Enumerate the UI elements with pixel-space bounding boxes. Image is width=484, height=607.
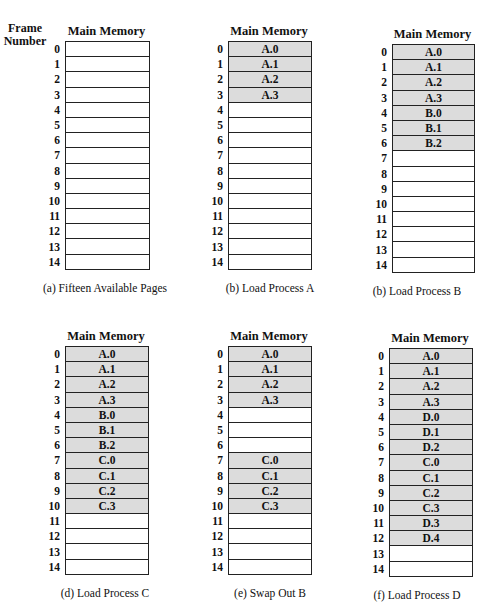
frame-empty [66,57,149,72]
frame-empty [229,164,311,179]
frame-page-d-1: D.1 [390,425,472,440]
frame-empty [66,42,149,57]
frame-number: 8 [365,167,387,181]
frame-page-c-1: C.1 [66,469,148,484]
frame-number: 9 [365,182,387,196]
frame-number: 9 [38,484,60,498]
frame-number: 1 [201,57,223,71]
frame-number: 5 [201,118,223,132]
frame-empty [393,242,474,257]
main-memory-title: Main Memory [228,24,310,39]
frame-number: 8 [38,164,60,178]
frame-page-a-2: A.2 [229,377,311,392]
frame-page-c-3: C.3 [390,501,472,516]
frame-empty [229,560,311,574]
frame-page-a-1: A.1 [229,362,311,377]
frame-empty [393,258,474,272]
panel-caption: (b) Load Process A [190,282,350,294]
frame-empty [393,212,474,227]
frame-number: 2 [201,72,223,86]
frame-empty [66,103,149,118]
frame-number: 8 [362,471,384,485]
frame-empty [393,182,474,197]
frame-number: 10 [38,194,60,208]
frame-empty [66,164,149,179]
frame-number: 9 [38,179,60,193]
frame-number: 5 [362,425,384,439]
frame-empty [66,209,149,224]
frame-number: 5 [38,423,60,437]
frame-number: 13 [38,240,60,254]
frame-number: 3 [365,91,387,105]
frame-number: 7 [362,455,384,469]
frame-number: 14 [38,255,60,269]
frame-number: 14 [365,258,387,272]
frame-empty [393,227,474,242]
frame-empty [229,118,311,133]
frame-number: 4 [38,408,60,422]
frame-number: 5 [201,423,223,437]
frame-number: 5 [365,121,387,135]
frame-number: 4 [362,410,384,424]
frame-number: 13 [365,243,387,257]
frame-number: 12 [362,531,384,545]
frame-empty [66,179,149,194]
frame-number: 0 [365,45,387,59]
frame-table [65,41,150,270]
frame-number: 9 [362,486,384,500]
frame-number: 11 [365,212,387,226]
frame-empty [393,197,474,212]
frame-page-c-3: C.3 [229,499,311,514]
frame-number: 0 [362,349,384,363]
frame-empty [229,148,311,163]
panel-caption: (e) Swap Out B [190,587,350,599]
panel-caption: (f) Load Process D [350,589,484,601]
frame-number: 12 [201,224,223,238]
frame-number: 6 [201,133,223,147]
frame-page-b-0: B.0 [66,408,148,423]
frame-empty [66,194,149,209]
frame-number: 1 [365,60,387,74]
frame-page-c-1: C.1 [229,469,311,484]
frame-page-c-2: C.2 [229,484,311,499]
frame-number: 10 [362,501,384,515]
frame-number: 9 [201,484,223,498]
frame-number: 5 [38,118,60,132]
frame-number: 4 [201,408,223,422]
panel-caption: (b) Load Process B [350,285,484,297]
frame-number: 4 [365,106,387,120]
frame-page-a-0: A.0 [66,347,148,362]
frame-number: 12 [365,227,387,241]
frame-page-c-1: C.1 [390,471,472,486]
frame-empty [66,255,149,269]
frame-empty [229,224,311,239]
frame-page-b-1: B.1 [66,423,148,438]
frame-empty [229,103,311,118]
frame-number: 3 [201,393,223,407]
frame-page-d-2: D.2 [390,440,472,455]
frame-number: 7 [38,453,60,467]
frame-empty [66,239,149,254]
frame-number: 10 [365,197,387,211]
frame-number: 11 [201,514,223,528]
frame-number: 2 [38,72,60,86]
frame-number: 13 [201,240,223,254]
frame-empty [393,167,474,182]
frame-number: 1 [201,362,223,376]
frame-number-header: Frame Number [2,22,48,48]
frame-empty [229,209,311,224]
main-memory-title: Main Memory [65,24,148,39]
frame-page-a-3: A.3 [393,91,474,106]
frame-number: 11 [362,516,384,530]
frame-empty [66,529,148,544]
frame-number: 6 [365,136,387,150]
frame-number: 6 [362,440,384,454]
frame-number: 2 [38,377,60,391]
frame-table: A.0A.1A.2A.3C.0C.1C.2C.3 [228,346,312,575]
frame-number: 10 [201,194,223,208]
main-memory-title: Main Memory [392,27,473,42]
frame-page-c-0: C.0 [66,453,148,468]
frame-page-d-3: D.3 [390,516,472,531]
frame-number: 0 [201,42,223,56]
frame-number: 8 [38,469,60,483]
